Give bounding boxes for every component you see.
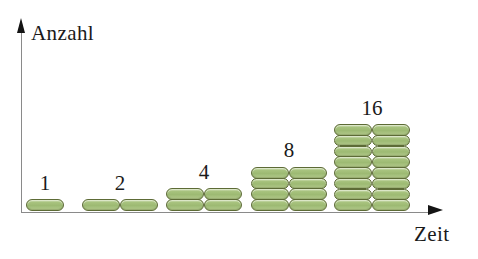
cell-glyph bbox=[372, 135, 410, 147]
cell-glyph bbox=[251, 199, 289, 211]
group-count-label: 1 bbox=[40, 173, 51, 194]
cell-row bbox=[334, 135, 410, 146]
cell-glyph bbox=[289, 167, 327, 179]
cell-row bbox=[251, 167, 327, 178]
up-arrow-icon bbox=[17, 18, 25, 33]
cell-group: 16 bbox=[334, 98, 410, 211]
cell-glyph bbox=[334, 124, 372, 136]
x-axis-line bbox=[21, 212, 430, 213]
x-axis-label: Zeit bbox=[414, 222, 449, 247]
cell-row bbox=[251, 200, 327, 211]
cell-glyph bbox=[334, 199, 372, 211]
cell-glyph bbox=[334, 178, 372, 190]
y-axis-line bbox=[21, 30, 22, 213]
cell-row bbox=[334, 167, 410, 178]
cell-glyph bbox=[372, 199, 410, 211]
cell-glyph bbox=[204, 199, 242, 211]
cell-glyph bbox=[334, 135, 372, 147]
cell-row bbox=[26, 200, 64, 211]
cell-row bbox=[334, 157, 410, 168]
cell-glyph bbox=[166, 199, 204, 211]
group-count-label: 8 bbox=[284, 140, 295, 161]
cell-group: 1 bbox=[26, 173, 64, 211]
right-arrow-icon bbox=[428, 205, 443, 215]
cell-stack bbox=[82, 200, 158, 211]
cell-group: 4 bbox=[166, 162, 242, 210]
cell-stack bbox=[166, 189, 242, 210]
group-count-label: 2 bbox=[115, 173, 126, 194]
cell-row bbox=[82, 200, 158, 211]
cell-row bbox=[334, 178, 410, 189]
cell-glyph bbox=[26, 199, 64, 211]
cell-stack bbox=[26, 200, 64, 211]
cell-glyph bbox=[372, 167, 410, 179]
cell-stack bbox=[334, 125, 410, 211]
cell-glyph bbox=[251, 167, 289, 179]
cell-division-diagram: Anzahl Zeit 124816 bbox=[0, 0, 478, 259]
cell-glyph bbox=[372, 178, 410, 190]
cell-glyph bbox=[334, 167, 372, 179]
cell-glyph bbox=[120, 199, 158, 211]
cell-row bbox=[166, 189, 242, 200]
cell-row bbox=[166, 200, 242, 211]
cell-row bbox=[334, 146, 410, 157]
cell-glyph bbox=[82, 199, 120, 211]
cell-row bbox=[334, 125, 410, 136]
cell-row bbox=[334, 189, 410, 200]
cell-glyph bbox=[289, 199, 327, 211]
y-axis-label: Anzahl bbox=[31, 21, 94, 46]
cell-glyph bbox=[372, 124, 410, 136]
group-count-label: 4 bbox=[199, 162, 210, 183]
group-count-label: 16 bbox=[362, 98, 383, 119]
cell-row bbox=[334, 200, 410, 211]
cell-stack bbox=[251, 167, 327, 210]
cell-group: 8 bbox=[251, 140, 327, 210]
cell-row bbox=[251, 178, 327, 189]
cell-group: 2 bbox=[82, 173, 158, 211]
cell-row bbox=[251, 189, 327, 200]
